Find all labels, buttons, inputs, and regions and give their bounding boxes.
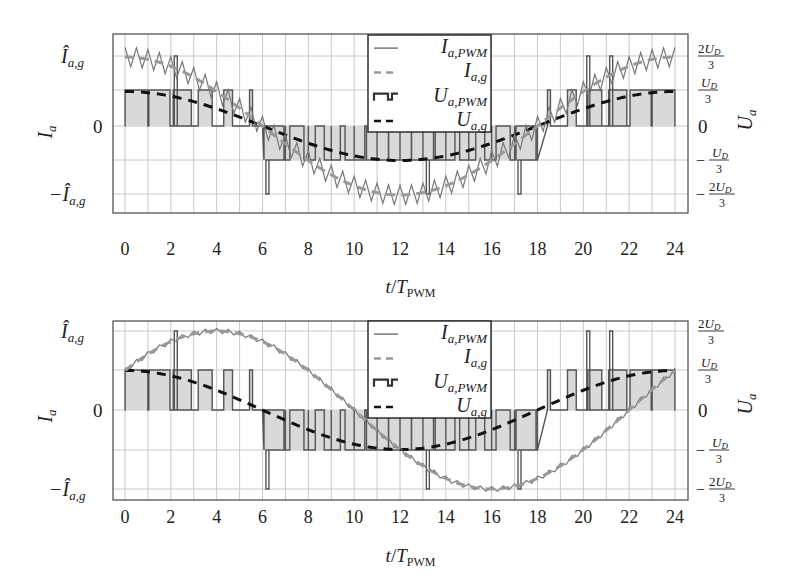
figure: Ia,PWMIa,gUa,PWMUa,g02468101214161820222… bbox=[0, 0, 808, 586]
svg-text:UD: UD bbox=[712, 435, 728, 451]
svg-text:UD: UD bbox=[712, 145, 728, 161]
x-tick-label: 14 bbox=[437, 507, 455, 527]
x-tick-label: 6 bbox=[258, 239, 267, 259]
y-tick-label-2ud3: 2UD3 bbox=[698, 41, 724, 72]
svg-text:3: 3 bbox=[705, 92, 711, 106]
y-tick-label-minus-2ud3: −2UD3 bbox=[696, 179, 735, 210]
y-tick-label-ud3: UD3 bbox=[698, 75, 718, 106]
x-tick-label: 12 bbox=[391, 507, 409, 527]
x-tick-label: 22 bbox=[620, 507, 638, 527]
y-tick-label-2ud3: 2UD3 bbox=[698, 316, 724, 347]
y-tick-label-i-hat: Îa,g bbox=[60, 45, 84, 70]
svg-text:2UD: 2UD bbox=[698, 316, 721, 332]
y-tick-label-minus-i-hat: −Îa,g bbox=[49, 478, 86, 503]
y-tick-label-i-hat: Îa,g bbox=[60, 320, 84, 345]
chart-bottom: Ia,PWMIa,gUa,PWMUa,g02468101214161820222… bbox=[34, 316, 759, 569]
svg-text:3: 3 bbox=[716, 452, 722, 466]
minus-sign: − bbox=[696, 481, 705, 498]
y-tick-label-minus-i-hat: −Îa,g bbox=[49, 183, 86, 208]
svg-text:UD: UD bbox=[701, 355, 717, 371]
x-tick-label: 2 bbox=[166, 239, 175, 259]
minus-sign: − bbox=[696, 152, 705, 169]
x-tick-label: 24 bbox=[666, 239, 684, 259]
y-tick-label-right-zero: 0 bbox=[698, 400, 708, 421]
minus-sign: − bbox=[696, 186, 705, 203]
minus-sign: − bbox=[696, 442, 705, 459]
y-axis-label-left: Ia bbox=[34, 409, 59, 424]
x-tick-label: 18 bbox=[529, 239, 547, 259]
x-tick-label: 12 bbox=[391, 239, 409, 259]
x-tick-label: 24 bbox=[666, 507, 684, 527]
svg-text:3: 3 bbox=[719, 196, 725, 210]
x-tick-label: 4 bbox=[212, 239, 221, 259]
chart-top: Ia,PWMIa,gUa,PWMUa,g02468101214161820222… bbox=[34, 34, 759, 300]
legend: Ia,PWMIa,gUa,PWMUa,g bbox=[368, 35, 491, 133]
y-axis-label-left: Ia bbox=[34, 125, 59, 140]
x-tick-label: 14 bbox=[437, 239, 455, 259]
y-tick-label-zero: 0 bbox=[93, 400, 103, 421]
y-tick-label-minus-ud3: −UD3 bbox=[696, 145, 729, 176]
x-tick-label: 16 bbox=[483, 507, 501, 527]
y-tick-label-ud3: UD3 bbox=[698, 355, 718, 386]
x-tick-label: 8 bbox=[304, 507, 313, 527]
y-tick-label-minus-2ud3: −2UD3 bbox=[696, 474, 735, 505]
y-tick-label-minus-ud3: −UD3 bbox=[696, 435, 729, 466]
svg-text:3: 3 bbox=[716, 162, 722, 176]
x-tick-label: 16 bbox=[483, 239, 501, 259]
svg-text:2UD: 2UD bbox=[709, 474, 732, 490]
x-tick-label: 10 bbox=[345, 507, 363, 527]
svg-text:2UD: 2UD bbox=[698, 41, 721, 57]
x-tick-label: 6 bbox=[258, 507, 267, 527]
svg-text:2UD: 2UD bbox=[709, 179, 732, 195]
svg-text:3: 3 bbox=[719, 491, 725, 505]
legend: Ia,PWMIa,gUa,PWMUa,g bbox=[368, 321, 491, 419]
svg-text:3: 3 bbox=[708, 333, 714, 347]
x-tick-label: 22 bbox=[620, 239, 638, 259]
x-axis-label: t/TPWM bbox=[386, 545, 436, 569]
x-axis-label: t/TPWM bbox=[386, 276, 436, 300]
x-tick-label: 4 bbox=[212, 507, 221, 527]
y-tick-label-right-zero: 0 bbox=[698, 116, 708, 137]
x-tick-label: 8 bbox=[304, 239, 313, 259]
x-tick-label: 20 bbox=[574, 239, 592, 259]
x-tick-label: 10 bbox=[345, 239, 363, 259]
svg-text:UD: UD bbox=[701, 75, 717, 91]
svg-text:3: 3 bbox=[705, 372, 711, 386]
svg-text:3: 3 bbox=[708, 58, 714, 72]
x-tick-label: 2 bbox=[166, 507, 175, 527]
x-tick-label: 0 bbox=[121, 507, 130, 527]
y-axis-label-right: Ua bbox=[734, 393, 759, 414]
x-tick-label: 20 bbox=[574, 507, 592, 527]
x-tick-label: 0 bbox=[121, 239, 130, 259]
y-axis-label-right: Ua bbox=[734, 109, 759, 130]
x-tick-label: 18 bbox=[529, 507, 547, 527]
y-tick-label-zero: 0 bbox=[93, 116, 103, 137]
